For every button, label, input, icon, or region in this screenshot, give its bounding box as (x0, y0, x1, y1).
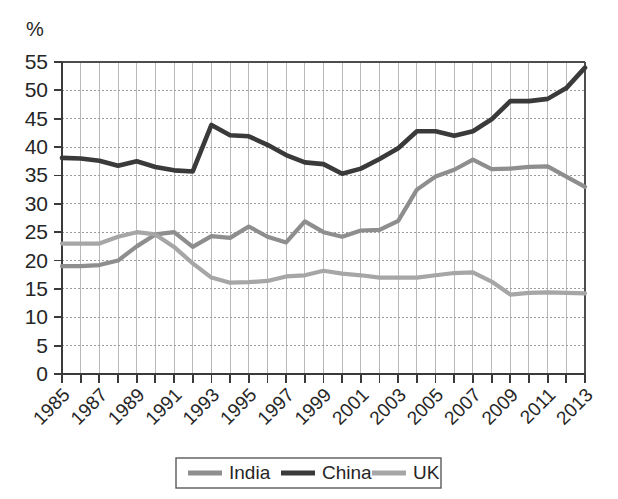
chart-container: 0510152025303540455055 19851987198919911… (0, 0, 618, 499)
x-axis-tick-label: 1999 (291, 384, 336, 429)
legend-label-uk: UK (413, 462, 440, 483)
x-axis-tick-label: 2005 (403, 384, 448, 429)
y-axis-tick-label: 25 (25, 220, 48, 243)
x-axis-tick-label: 2003 (365, 384, 410, 429)
y-axis-tick-label: 5 (36, 334, 48, 357)
y-axis-tick-label: 10 (25, 305, 48, 328)
y-axis-tick-label: 30 (25, 192, 48, 215)
x-axis-tick-label: 1985 (29, 384, 74, 429)
x-axis-tick-label: 1995 (216, 384, 261, 429)
y-axis-tick-labels: 0510152025303540455055 (25, 50, 48, 385)
x-axis-tick-label: 2007 (440, 384, 485, 429)
y-axis-tick-label: 15 (25, 277, 48, 300)
x-axis-tick-label: 2001 (328, 384, 373, 429)
x-axis-tick-label: 2009 (477, 384, 522, 429)
x-axis-tick-label: 1991 (141, 384, 186, 429)
x-axis-tick-label: 2013 (552, 384, 597, 429)
x-axis-tick-label: 1993 (179, 384, 224, 429)
y-axis-tick-label: 45 (25, 107, 48, 130)
x-axis-tick-label: 1997 (253, 384, 298, 429)
y-axis-unit-label: % (26, 18, 44, 40)
x-axis-tick-labels: 1985198719891991199319951997199920012003… (29, 384, 597, 429)
y-axis (54, 62, 62, 374)
y-axis-tick-label: 0 (36, 362, 48, 385)
grid-vertical (62, 62, 585, 374)
y-axis-tick-label: 55 (25, 50, 48, 73)
y-axis-tick-label: 35 (25, 163, 48, 186)
legend-label-china: China (322, 462, 372, 483)
x-axis (62, 374, 585, 383)
x-axis-tick-label: 2011 (516, 384, 560, 428)
x-axis-tick-label: 1989 (104, 384, 149, 429)
y-axis-tick-label: 50 (25, 78, 48, 101)
y-axis-tick-label: 40 (25, 135, 48, 158)
y-axis-tick-label: 20 (25, 249, 48, 272)
line-chart: 0510152025303540455055 19851987198919911… (0, 0, 618, 499)
legend-label-india: India (229, 462, 271, 483)
chart-legend: IndiaChinaUK (176, 458, 441, 488)
x-axis-tick-label: 1987 (66, 384, 111, 429)
